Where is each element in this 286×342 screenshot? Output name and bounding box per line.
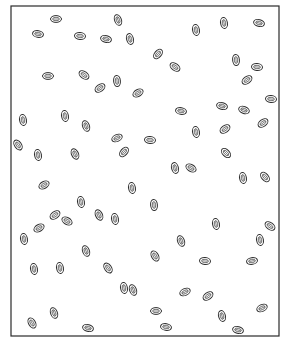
seed — [81, 245, 91, 258]
seed — [150, 199, 158, 211]
seed — [259, 171, 271, 184]
seed — [202, 290, 215, 302]
seed — [33, 222, 46, 233]
seed — [94, 82, 107, 94]
seed — [125, 33, 134, 45]
seed — [56, 262, 65, 274]
seed — [100, 34, 112, 43]
seed — [246, 257, 258, 266]
seed — [175, 107, 187, 116]
seed — [176, 235, 186, 248]
seed — [232, 54, 240, 66]
seed — [19, 114, 28, 126]
seed — [128, 284, 138, 297]
seed — [265, 95, 277, 103]
seed — [30, 263, 39, 275]
seed — [77, 196, 86, 208]
seed — [241, 74, 254, 86]
seed — [49, 209, 62, 221]
seed — [179, 287, 192, 298]
seed — [38, 179, 51, 190]
seed — [12, 139, 24, 152]
seed — [149, 250, 160, 263]
seed — [217, 310, 226, 322]
seed — [49, 307, 59, 320]
seed — [251, 63, 263, 71]
seed — [78, 69, 91, 81]
seed — [160, 323, 172, 332]
seed — [144, 136, 156, 144]
seed — [239, 172, 248, 184]
seed — [264, 220, 277, 232]
seed — [256, 234, 265, 246]
seed — [43, 73, 54, 80]
seed — [152, 48, 164, 61]
seed — [220, 147, 233, 160]
seed — [26, 317, 37, 330]
seed — [113, 14, 123, 27]
frame-border — [11, 6, 279, 336]
seed — [185, 162, 198, 173]
seed — [257, 117, 270, 129]
seed — [169, 61, 182, 73]
seed — [170, 162, 179, 174]
seed — [111, 133, 124, 144]
seed — [20, 233, 29, 245]
seed — [70, 148, 81, 161]
seed — [32, 30, 44, 39]
seed — [94, 209, 105, 222]
seed — [199, 257, 211, 265]
seed — [118, 146, 130, 159]
seed — [113, 75, 121, 87]
seed — [74, 32, 86, 40]
seed — [256, 303, 269, 314]
seed — [212, 218, 221, 230]
seed — [216, 101, 228, 110]
seed — [253, 18, 265, 27]
seed — [51, 16, 62, 23]
seed — [151, 308, 162, 315]
seed — [102, 262, 114, 275]
seed — [81, 120, 91, 133]
seed — [34, 149, 43, 161]
seed — [220, 17, 229, 29]
seed — [82, 323, 94, 332]
seed — [111, 213, 120, 225]
seed — [132, 87, 145, 98]
seed — [192, 24, 201, 36]
seed — [128, 182, 137, 194]
seed — [219, 123, 232, 135]
seed — [120, 282, 129, 294]
seed — [61, 110, 70, 122]
seed — [232, 325, 244, 334]
seed — [238, 105, 251, 115]
seed — [192, 126, 201, 138]
seed-group — [12, 14, 277, 335]
seed — [61, 215, 74, 226]
seed-illustration — [0, 0, 286, 342]
